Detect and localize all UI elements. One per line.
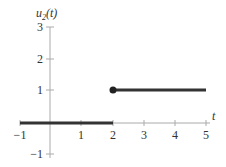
step-function-chart: −1 1 2 3 4 5 3 2 1 −1 u2(t) t (0, 0, 226, 167)
x-tick-label: −1 (14, 128, 27, 142)
x-tick-label: 1 (78, 128, 84, 142)
y-tick-label: 1 (37, 83, 43, 97)
x-tick-label: 3 (141, 128, 147, 142)
closed-dot-marker (110, 87, 117, 94)
x-tick-label: 2 (110, 128, 116, 142)
y-tick-label: −1 (30, 147, 43, 161)
y-axis-label: u2(t) (36, 6, 57, 22)
x-tick-label: 5 (203, 128, 209, 142)
y-tick-label: 3 (37, 20, 43, 34)
x-axis-label: t (212, 109, 216, 123)
y-tick-label: 2 (37, 52, 43, 66)
x-tick-label: 4 (172, 128, 178, 142)
